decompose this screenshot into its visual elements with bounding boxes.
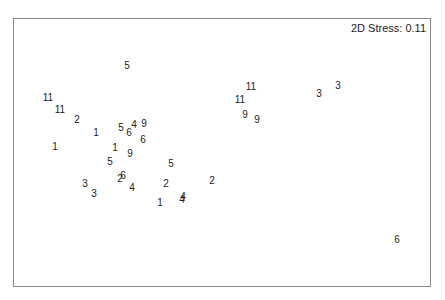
point-label: 1 — [157, 198, 163, 208]
point-label: 4 — [129, 183, 135, 193]
point-label: 3 — [316, 89, 322, 99]
point-label: 3 — [91, 189, 97, 199]
point-label: 5 — [118, 123, 124, 133]
point-label: 2 — [163, 179, 169, 189]
point-label: 4 — [179, 195, 185, 205]
point-label: 2 — [117, 174, 123, 184]
point-label: 3 — [335, 81, 341, 91]
point-label: 9 — [127, 149, 133, 159]
point-label: 11 — [235, 95, 245, 105]
point-label: 2 — [209, 176, 215, 186]
point-label: 6 — [394, 235, 400, 245]
scatter-points: 511112156496119556233422144111199336 — [0, 0, 445, 300]
point-label: 11 — [43, 93, 53, 103]
point-label: 5 — [124, 61, 130, 71]
point-label: 9 — [254, 115, 260, 125]
point-label: 5 — [107, 157, 113, 167]
point-label: 2 — [74, 115, 80, 125]
point-label: 6 — [140, 135, 146, 145]
point-label: 9 — [242, 110, 248, 120]
point-label: 11 — [55, 105, 65, 115]
point-label: 11 — [246, 82, 256, 92]
point-label: 1 — [112, 143, 118, 153]
point-label: 5 — [168, 159, 174, 169]
point-label: 1 — [93, 128, 99, 138]
point-label: 9 — [141, 119, 147, 129]
point-label: 1 — [52, 142, 58, 152]
point-label: 3 — [82, 179, 88, 189]
point-label: 4 — [131, 120, 137, 130]
